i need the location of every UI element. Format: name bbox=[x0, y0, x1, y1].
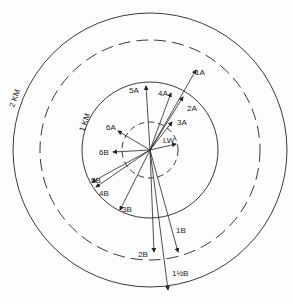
label-4b: 4B bbox=[99, 189, 109, 198]
vector-6a bbox=[118, 131, 150, 150]
label-6a: 6A bbox=[106, 123, 116, 132]
label-3b: 3B bbox=[122, 205, 132, 214]
label-4a: 4A bbox=[158, 89, 168, 98]
label-3a: 3A bbox=[177, 118, 187, 127]
diagram-canvas: 2 KM 1 KM 1A 2A 3A 4A 5A 6A LW 1B 1½B 2B… bbox=[0, 0, 293, 304]
label-1b: 1B bbox=[176, 226, 186, 235]
label-1km: 1 KM bbox=[77, 112, 92, 133]
vector-5a bbox=[146, 86, 150, 150]
label-1a: 1A bbox=[195, 68, 205, 77]
label-15b: 1½B bbox=[172, 269, 188, 278]
label-2b: 2B bbox=[138, 250, 148, 259]
label-5a: 5A bbox=[129, 86, 139, 95]
label-lw: LW bbox=[163, 136, 175, 145]
label-2a: 2A bbox=[187, 104, 197, 113]
vector-3b bbox=[120, 150, 150, 210]
vector-diagram: 2 KM 1 KM 1A 2A 3A 4A 5A 6A LW 1B 1½B 2B… bbox=[0, 0, 293, 304]
vector-6b bbox=[113, 150, 150, 152]
label-6b: 6B bbox=[99, 148, 109, 157]
label-5b: 5B bbox=[91, 176, 101, 185]
